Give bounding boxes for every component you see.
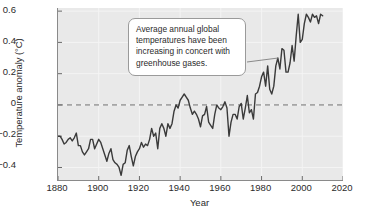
y-tick-text: 0.2 — [3, 66, 16, 77]
callout-line-4: greenhouse gases. — [136, 58, 238, 69]
x-tick-label: 1900 — [98, 182, 119, 193]
y-tick-text: −0.4 — [0, 159, 16, 170]
x-tick-label: 1880 — [57, 182, 78, 193]
x-tick-label: 1920 — [138, 182, 159, 193]
x-tick-text: 1920 — [128, 182, 149, 193]
x-tick-label: 2020 — [342, 182, 363, 193]
y-tick-text: 0.6 — [3, 4, 16, 15]
x-tick-text: 1880 — [46, 182, 67, 193]
x-tick-text: 1940 — [169, 182, 190, 193]
x-tick-label: 2000 — [301, 182, 322, 193]
callout-line-3: increasing in concert with — [136, 46, 238, 57]
x-tick-label: 1960 — [220, 182, 241, 193]
x-tick-text: 2020 — [331, 182, 352, 193]
x-tick-text: 1980 — [250, 182, 271, 193]
y-tick-text: 0 — [11, 97, 16, 108]
callout-line-1: Average annual global — [136, 24, 238, 35]
x-axis-title: Year — [57, 197, 342, 208]
callout-leader-line — [247, 58, 278, 62]
x-tick-text: 1960 — [209, 182, 230, 193]
y-axis-title: Temperature anomaly (°C) — [12, 8, 26, 178]
temperature-anomaly-figure: Temperature anomaly (°C) 0.6 0.4 0.2 0 −… — [0, 0, 365, 213]
y-tick-text: 0.4 — [3, 35, 16, 46]
x-tick-text: 2000 — [291, 182, 312, 193]
callout-annotation: Average annual global temperatures have … — [128, 18, 246, 76]
y-tick-text: −0.2 — [0, 128, 16, 139]
x-tick-label: 1980 — [261, 182, 282, 193]
x-tick-label: 1940 — [179, 182, 200, 193]
x-tick-text: 1900 — [87, 182, 108, 193]
callout-line-2: temperatures have been — [136, 35, 238, 46]
